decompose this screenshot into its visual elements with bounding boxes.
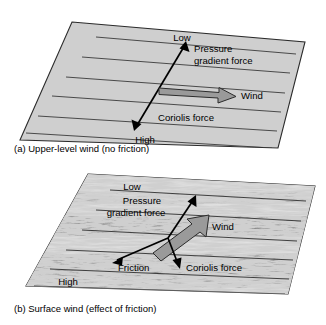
panel-a-plane — [20, 22, 305, 148]
panel-b-label-low: Low — [123, 181, 141, 192]
panel-a-label-coriolis: Coriolis force — [158, 112, 214, 123]
panel-b-caption: (b) Surface wind (effect of friction) — [14, 303, 156, 314]
wind-force-balance-figure: Low High Pressure gradient force Wind Co… — [0, 0, 326, 325]
panel-a-caption: (a) Upper-level wind (no friction) — [14, 143, 149, 154]
panel-a-label-pressure-gradient-line1: Pressure — [194, 43, 232, 54]
panel-b-label-high: High — [58, 276, 78, 287]
panel-a-label-wind: Wind — [241, 90, 263, 101]
panel-a-label-pressure-gradient-line2: gradient force — [194, 55, 253, 66]
panel-b-diagram: Low High Pressure gradient force Wind Fr… — [0, 168, 326, 308]
panel-b-label-pressure-gradient-line1: Pressure — [123, 195, 161, 206]
panel-a-diagram: Low High Pressure gradient force Wind Co… — [0, 0, 326, 160]
panel-b-label-wind: Wind — [212, 221, 234, 232]
panel-b-label-coriolis: Coriolis force — [186, 262, 242, 273]
panel-b-label-friction: Friction — [118, 262, 149, 273]
panel-a-label-low: Low — [173, 32, 191, 43]
panel-b-label-pressure-gradient-line2: gradient force — [107, 207, 166, 218]
